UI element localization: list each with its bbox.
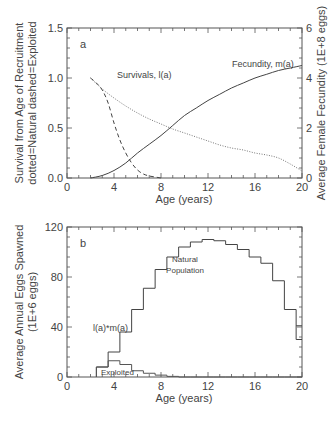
right-y-tick-label: 4 [306, 72, 312, 84]
y-tick-label: 0 [57, 371, 63, 383]
survivals-annotation: Survivals, l(a) [117, 70, 172, 80]
x-tick-label: 8 [158, 380, 164, 392]
panel-a-y-axis-title-line2: dotted=Natural dashed=Exploited [26, 21, 38, 184]
x-tick-label: 12 [202, 380, 214, 392]
panel-a-ticks: 0481216200.00.51.01.50246 [48, 22, 312, 193]
fecundity-annotation: Fecundity, m(a) [232, 59, 294, 69]
natural-population-histogram [96, 240, 302, 378]
panel-b-x-axis-title: Age (years) [156, 392, 213, 404]
panel-b-label: b [80, 237, 86, 249]
panel-b-chart: 04812162004080120 b Natural Population l… [13, 221, 308, 404]
right-y-tick-label: 2 [306, 122, 312, 134]
x-tick-label: 16 [249, 380, 261, 392]
panel-a-label: a [80, 38, 87, 50]
exploited-annotation: Exploited [101, 368, 134, 377]
panel-a-chart: 0481216200.00.51.01.50246 a Survivals, l… [13, 6, 327, 205]
product-annotation: l(a)*m(a) [93, 323, 128, 333]
x-tick-label: 20 [296, 380, 308, 392]
panel-b-y-axis-title-line2: (1E+6 eggs) [26, 272, 38, 332]
y-tick-label: 120 [45, 221, 63, 233]
figure: 0481216200.00.51.01.50246 a Survivals, l… [0, 0, 333, 423]
x-tick-label: 4 [111, 181, 117, 193]
y-tick-label: 0.0 [48, 172, 63, 184]
right-y-tick-label: 6 [306, 22, 312, 34]
natural-annotation-line1: Natural [172, 255, 198, 264]
y-tick-label: 0.5 [48, 122, 63, 134]
x-tick-label: 16 [249, 181, 261, 193]
y-tick-label: 80 [51, 271, 63, 283]
x-tick-label: 0 [64, 380, 70, 392]
y-tick-label: 1.0 [48, 72, 63, 84]
x-tick-label: 4 [111, 380, 117, 392]
panel-a-y-axis-title-line1: Survival from Age of Recruitment [13, 23, 25, 184]
x-tick-label: 0 [64, 181, 70, 193]
panel-a-series [91, 66, 303, 179]
panel-a-right-axis-title: Average Female Fecundity (1E+8 eggs) [315, 6, 327, 201]
natural-survival-line [91, 78, 303, 171]
panel-b-frame [67, 227, 302, 377]
natural-annotation-line2: Population [166, 266, 204, 275]
x-tick-label: 12 [202, 181, 214, 193]
right-y-tick-label: 0 [306, 172, 312, 184]
panel-b-y-axis-title-line1: Average Annual Eggs Spawned [13, 225, 25, 380]
x-tick-label: 8 [158, 181, 164, 193]
fecundity-line [91, 66, 303, 179]
panel-b-series [96, 240, 302, 378]
y-tick-label: 40 [51, 321, 63, 333]
panel-a-x-axis-title: Age (years) [156, 193, 213, 205]
y-tick-label: 1.5 [48, 22, 63, 34]
